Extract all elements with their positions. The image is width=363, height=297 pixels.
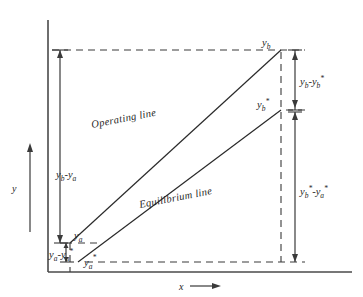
bracket-right-top-arrow-up <box>292 52 298 60</box>
bracket-left-large-arrow-down <box>57 235 63 243</box>
x-axis-label: x <box>178 281 184 292</box>
curve-labels-group: Operating line Equilibrium line <box>90 107 213 211</box>
bracket-right-bottom-arrow-down <box>292 254 298 262</box>
label-yb-star-star: * <box>265 97 269 106</box>
label-ya-star-star: * <box>92 253 96 262</box>
bracket-left-small-star2: * <box>69 247 73 256</box>
operating-line-label: Operating line <box>90 107 157 130</box>
construction-lines-group <box>52 50 305 272</box>
axis-titles-group: y x <box>11 143 221 292</box>
label-yb-sub: b <box>267 42 271 51</box>
bracket-left-large-sub2: a <box>73 174 77 183</box>
bracket-left-large-label: yb-ya <box>55 169 77 183</box>
bracket-right-bottom-arrow-up <box>292 112 298 120</box>
bracket-right-top-star2: * <box>320 74 324 83</box>
bracket-left-small-arrow-up <box>64 243 69 248</box>
bracket-right-bottom-label: yb*-ya* <box>299 184 328 200</box>
y-axis-label: y <box>11 183 17 194</box>
bracket-right-top-arrow-down <box>292 100 298 108</box>
bracket-right-bottom: yb*-ya* <box>288 112 328 262</box>
axes-group <box>48 20 352 272</box>
bracket-right-top-label: yb-yb* <box>299 74 324 90</box>
label-yb-star: yb* <box>256 97 269 113</box>
equilibrium-line <box>78 110 281 262</box>
bracket-left-large: yb-ya <box>52 50 77 243</box>
bracket-right-top: yb-yb* <box>288 50 324 110</box>
label-ya-star-sub: a <box>89 262 93 271</box>
driving-force-diagram: yb-ya ya-ya* yb-yb* yb*-ya* <box>0 0 363 297</box>
y-axis-arrow-head <box>27 143 33 152</box>
point-labels-group: yb yb* ya ya* <box>73 37 271 271</box>
bracket-left-large-arrow-up <box>57 50 63 58</box>
label-ya-star: ya* <box>83 253 96 271</box>
label-yb: yb <box>261 37 271 51</box>
curves-group <box>70 50 281 262</box>
label-ya-sub: a <box>79 235 83 244</box>
x-axis-arrow-head <box>212 283 221 289</box>
bracket-right-bottom-star2: * <box>324 184 328 193</box>
operating-line <box>70 50 281 243</box>
